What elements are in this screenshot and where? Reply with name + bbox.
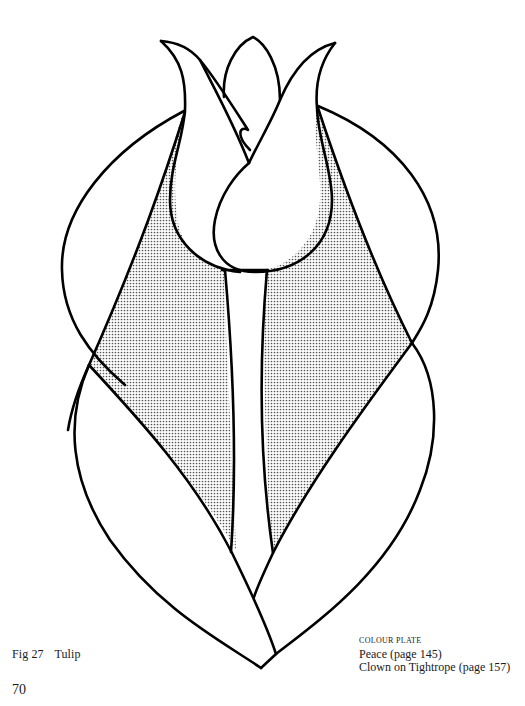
figure-number: Fig 27: [12, 647, 44, 661]
center-petal: [224, 37, 280, 100]
right-shaded-leaf: [264, 108, 412, 555]
colour-plate-reference: COLOUR PLATE Peace (page 145) Clown on T…: [359, 634, 510, 674]
figure-title: Tulip: [55, 647, 81, 661]
colour-plate-item: Clown on Tightrope (page 157): [359, 661, 510, 674]
tulip-pattern-drawing: [0, 0, 525, 706]
figure-caption: Fig 27 Tulip: [12, 647, 81, 662]
page-number: 70: [12, 682, 26, 698]
colour-plate-heading: COLOUR PLATE: [359, 634, 510, 647]
